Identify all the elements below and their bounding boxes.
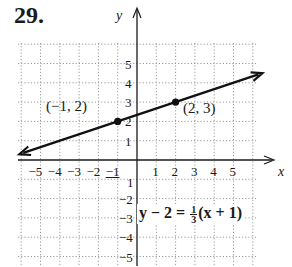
graph-figure: 29. y x −5−4−3−2−112345 −5−4−3−2112345 (…: [0, 0, 292, 267]
axes: [18, 8, 274, 266]
equation-fraction: 13: [190, 205, 197, 224]
x-tick-label: 2: [172, 165, 179, 178]
y-tick-label: −4: [119, 231, 133, 244]
equation-right: (x + 1): [198, 204, 242, 221]
data-point: [114, 118, 121, 125]
x-tick-label: −1: [106, 165, 120, 178]
y-tick-label: 5: [125, 58, 132, 71]
x-tick-label: −4: [48, 165, 62, 178]
x-tick-label: −3: [67, 165, 81, 178]
x-tick-label: 1: [152, 165, 159, 178]
fraction-denominator: 3: [190, 215, 197, 224]
x-tick-label: 3: [191, 165, 198, 178]
coordinate-plane: [0, 0, 292, 267]
y-tick-label: 1: [125, 135, 132, 148]
x-tick-label: 4: [210, 165, 217, 178]
y-tick-label: −2: [119, 193, 133, 206]
y-tick-label: 2: [125, 115, 132, 128]
y-axis-label: y: [116, 8, 122, 24]
point-label-neg1-2: (−1, 2): [46, 98, 87, 115]
y-tick-label: 1: [127, 176, 134, 189]
y-tick-label: 4: [125, 77, 132, 90]
equation-left: y − 2 =: [139, 204, 189, 221]
line-equation: y − 2 = 13(x + 1): [137, 204, 244, 224]
data-point: [172, 99, 179, 106]
y-tick-label: −3: [119, 212, 133, 225]
x-tick-label: −5: [29, 165, 43, 178]
y-tick-label: −5: [119, 251, 133, 264]
x-axis-label: x: [278, 164, 284, 180]
x-tick-label: −2: [86, 165, 100, 178]
y-tick-label: 3: [125, 96, 132, 109]
point-label-2-3: (2, 3): [183, 100, 216, 117]
x-tick-label: 5: [230, 165, 237, 178]
